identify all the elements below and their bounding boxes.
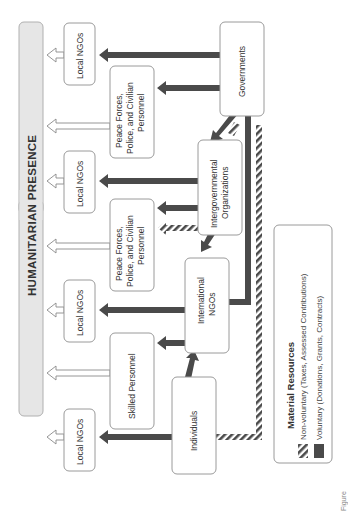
- svg-text:NGOs: NGOs: [207, 292, 217, 316]
- solid-arrow-icon: [99, 174, 198, 188]
- skilled-personnel: Skilled Personnel: [110, 333, 154, 429]
- svg-text:Police, and Civilian: Police, and Civilian: [125, 82, 135, 154]
- solid-arrow-icon: [99, 303, 185, 317]
- local-ngos-4: Local NGOs: [64, 409, 95, 471]
- svg-text:Skilled Personnel: Skilled Personnel: [127, 353, 137, 419]
- svg-text:Local NGOs: Local NGOs: [75, 290, 85, 336]
- hollow-arrow-icon: [47, 48, 64, 62]
- hatched-swatch-icon: [298, 444, 308, 458]
- hollow-arrows: [47, 48, 110, 444]
- svg-text:Governments: Governments: [237, 46, 247, 97]
- hollow-arrow-icon: [47, 430, 64, 444]
- governments: Governments: [220, 22, 264, 116]
- svg-text:Police, and Civilian: Police, and Civilian: [125, 215, 135, 287]
- solid-arrow-icon: [157, 336, 185, 350]
- hollow-arrow-icon: [47, 366, 110, 380]
- solid-arrow-icon: [157, 201, 198, 215]
- peace-forces-2: Peace Forces, Police, and Civilian Perso…: [110, 199, 154, 291]
- local-ngos-3: Local NGOs: [64, 280, 95, 342]
- svg-text:Organizations: Organizations: [220, 167, 230, 219]
- solid-arrow-icon: [185, 350, 199, 379]
- hollow-arrow-icon: [47, 174, 64, 188]
- solid-arrow-icon: [99, 430, 172, 444]
- legend-item-nonvoluntary: Non-voluntary (Taxes, Assessed Contribut…: [299, 273, 308, 440]
- local-ngos-1: Local NGOs: [64, 23, 95, 85]
- svg-text:Intergovernmental: Intergovernmental: [209, 159, 219, 228]
- solid-arrow-icon: [99, 48, 220, 62]
- svg-text:Personnel: Personnel: [136, 94, 146, 132]
- svg-text:Peace Forces,: Peace Forces,: [114, 226, 124, 281]
- hollow-arrow-icon: [47, 119, 110, 133]
- svg-text:International: International: [196, 277, 206, 324]
- legend-item-voluntary: Voluntary (Donations, Grants, Contracts): [315, 296, 324, 440]
- humanitarian-diagram: HUMANITARIAN PRESENCE Local NGOs Peace F…: [0, 0, 348, 511]
- individuals: Individuals: [172, 377, 216, 474]
- svg-text:Individuals: Individuals: [189, 411, 199, 451]
- svg-text:Local NGOs: Local NGOs: [75, 33, 85, 79]
- intergovernmental-organizations: Intergovernmental Organizations: [198, 140, 242, 235]
- hollow-arrow-icon: [47, 239, 110, 253]
- legend-title: Material Resources: [285, 342, 296, 429]
- svg-text:Local NGOs: Local NGOs: [75, 161, 85, 207]
- international-ngos: International NGOs: [185, 258, 229, 353]
- svg-text:Peace Forces,: Peace Forces,: [114, 93, 124, 148]
- banner-title: HUMANITARIAN PRESENCE: [26, 135, 38, 296]
- svg-text:Local NGOs: Local NGOs: [75, 419, 85, 465]
- hollow-arrow-icon: [47, 303, 64, 317]
- humanitarian-presence-banner: HUMANITARIAN PRESENCE: [19, 22, 43, 416]
- figure-caption: Figure: [340, 491, 348, 511]
- local-ngos-2: Local NGOs: [64, 151, 95, 213]
- solid-arrow-icon: [157, 81, 220, 95]
- legend: Material Resources Non-voluntary (Taxes,…: [274, 225, 332, 463]
- svg-text:Personnel: Personnel: [136, 227, 146, 265]
- solid-swatch-icon: [314, 444, 324, 458]
- peace-forces-1: Peace Forces, Police, and Civilian Perso…: [110, 66, 154, 158]
